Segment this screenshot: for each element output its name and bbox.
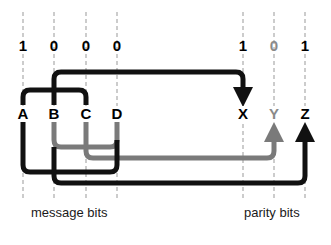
label-x: X [237,106,249,122]
bit-b: 0 [50,37,58,54]
path-to-y [54,122,274,158]
bit-x: 1 [239,37,247,54]
path-to-x [23,72,243,105]
bit-z: 1 [301,37,309,54]
bit-y: 0 [270,37,278,54]
message-bits-caption: message bits [31,205,108,220]
label-b: B [48,106,61,122]
parity-bits-caption: parity bits [244,205,300,220]
label-a: A [17,106,30,122]
label-d: D [111,106,124,122]
label-z: Z [299,106,310,122]
label-y: Y [268,106,280,122]
bit-c: 0 [82,37,90,54]
bit-d: 0 [113,37,121,54]
bit-a: 1 [19,37,27,54]
parity-diagram: 1 0 0 0 1 0 1 A B C D X Y Z message bits… [0,0,331,245]
label-c: C [80,106,93,122]
path-to-z [23,122,305,183]
